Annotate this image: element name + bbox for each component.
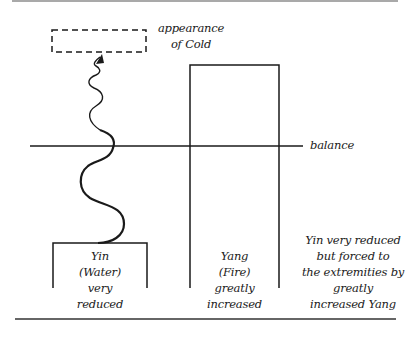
yin-label: Yin (Water) very reduced bbox=[53, 248, 147, 312]
yin-line-4: reduced bbox=[53, 296, 147, 312]
yin-line-2: (Water) bbox=[53, 264, 147, 280]
caption-label: Yin very reduced but forced to the extre… bbox=[297, 232, 409, 312]
appearance-line-1: appearance bbox=[152, 20, 230, 36]
yang-label: Yang (Fire) greatly increased bbox=[190, 248, 279, 312]
yang-line-1: Yang bbox=[190, 248, 279, 264]
upward-wave-upper bbox=[89, 57, 103, 130]
balance-label: balance bbox=[310, 137, 354, 153]
yang-line-4: increased bbox=[190, 296, 279, 312]
yin-line-3: very bbox=[53, 280, 147, 296]
caption-line-5: increased Yang bbox=[297, 296, 409, 312]
yin-line-1: Yin bbox=[53, 248, 147, 264]
upward-wave-lower bbox=[81, 130, 124, 243]
caption-line-2: but forced to bbox=[297, 248, 409, 264]
caption-line-3: the extremities by bbox=[297, 264, 409, 280]
caption-line-1: Yin very reduced bbox=[297, 232, 409, 248]
caption-line-4: greatly bbox=[297, 280, 409, 296]
appearance-of-cold-dashed-box bbox=[52, 30, 146, 52]
yang-line-3: greatly bbox=[190, 280, 279, 296]
appearance-line-2: of Cold bbox=[152, 36, 230, 52]
appearance-of-cold-label: appearance of Cold bbox=[152, 20, 230, 52]
yang-line-2: (Fire) bbox=[190, 264, 279, 280]
